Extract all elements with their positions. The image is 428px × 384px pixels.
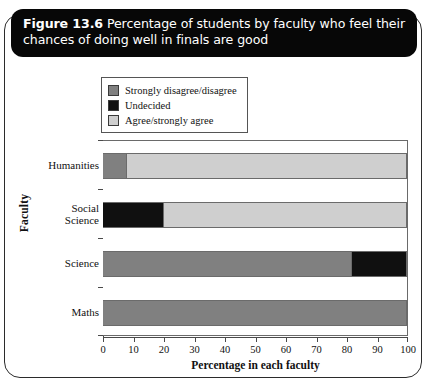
x-axis-tick-label: 90 bbox=[363, 344, 393, 355]
y-axis-category-label: Maths bbox=[29, 306, 99, 318]
bar-segment bbox=[164, 202, 407, 228]
x-axis-tick-label: 100 bbox=[393, 344, 423, 355]
bar-segment bbox=[103, 153, 127, 179]
x-axis-tick-label: 0 bbox=[88, 344, 118, 355]
legend-swatch-icon bbox=[108, 85, 119, 96]
x-axis-tick bbox=[195, 337, 196, 342]
bar-segment bbox=[103, 202, 164, 228]
plot-frame bbox=[103, 140, 408, 336]
x-axis-tick bbox=[164, 337, 165, 342]
x-axis-tick bbox=[317, 337, 318, 342]
y-axis-category-label: SocialScience bbox=[29, 202, 99, 226]
x-axis-tick-label: 50 bbox=[241, 344, 271, 355]
bar-row bbox=[103, 153, 407, 179]
x-axis-tick bbox=[225, 337, 226, 342]
x-axis-tick bbox=[134, 337, 135, 342]
bar-segment bbox=[352, 251, 407, 277]
x-axis-tick-label: 10 bbox=[119, 344, 149, 355]
bar-row bbox=[103, 300, 407, 326]
x-axis-tick-label: 40 bbox=[210, 344, 240, 355]
legend-item: Strongly disagree/disagree bbox=[108, 83, 237, 97]
x-axis-tick-label: 80 bbox=[332, 344, 362, 355]
bar-row bbox=[103, 202, 407, 228]
x-axis-tick bbox=[103, 337, 104, 342]
x-axis-tick bbox=[256, 337, 257, 342]
y-axis-category-labels: HumanitiesSocialScienceScienceMaths bbox=[25, 140, 99, 336]
x-axis-tick bbox=[347, 337, 348, 342]
legend-item-label: Agree/strongly agree bbox=[125, 115, 213, 126]
x-axis-tick-label: 70 bbox=[302, 344, 332, 355]
legend-item-label: Strongly disagree/disagree bbox=[125, 85, 237, 96]
legend-item: Agree/strongly agree bbox=[108, 113, 237, 127]
bar-segment bbox=[103, 300, 407, 326]
y-axis-category-label: Humanities bbox=[29, 159, 99, 171]
legend-item-label: Undecided bbox=[125, 100, 170, 111]
figure-number-label: Figure 13.6 bbox=[23, 16, 103, 31]
bar-row bbox=[103, 251, 407, 277]
x-axis-tick-label: 20 bbox=[149, 344, 179, 355]
x-axis-line: 0102030405060708090100 bbox=[103, 337, 408, 338]
bar-segment bbox=[103, 251, 352, 277]
y-axis-category-label: Science bbox=[29, 257, 99, 269]
chart-plot-area: Strongly disagree/disagreeUndecidedAgree… bbox=[5, 67, 423, 377]
legend-swatch-icon bbox=[108, 115, 119, 126]
legend-swatch-icon bbox=[108, 100, 119, 111]
x-axis-title: Percentage in each faculty bbox=[103, 359, 408, 371]
x-axis-tick bbox=[378, 337, 379, 342]
chart-legend: Strongly disagree/disagreeUndecidedAgree… bbox=[101, 77, 248, 133]
figure-caption-text: Figure 13.6 Percentage of students by fa… bbox=[23, 16, 405, 48]
figure-caption-banner: Figure 13.6 Percentage of students by fa… bbox=[11, 9, 417, 57]
x-axis-tick-label: 60 bbox=[271, 344, 301, 355]
x-axis-tick bbox=[407, 337, 408, 342]
legend-item: Undecided bbox=[108, 98, 237, 112]
x-axis-tick bbox=[286, 337, 287, 342]
figure-card: Figure 13.6 Percentage of students by fa… bbox=[4, 14, 422, 378]
x-axis-tick-label: 30 bbox=[180, 344, 210, 355]
bar-segment bbox=[127, 153, 407, 179]
